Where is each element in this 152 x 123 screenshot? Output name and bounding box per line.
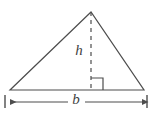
height-label: h [75, 42, 83, 58]
base-label: b [72, 91, 80, 107]
triangle-area-figure: h b [0, 0, 152, 123]
geometry-diagram-svg: h b [0, 0, 152, 123]
